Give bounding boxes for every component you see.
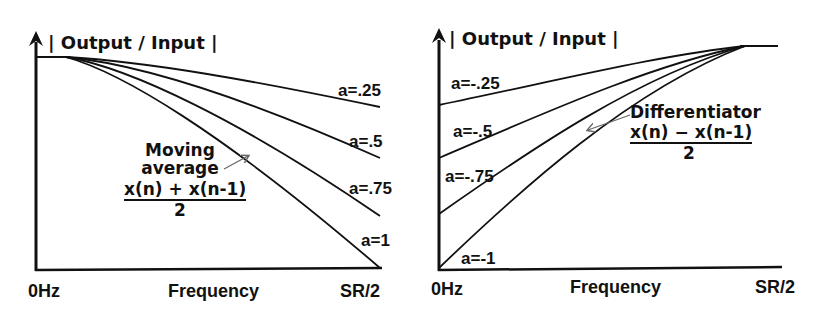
moving-average-title-line2: average (124, 160, 236, 177)
curve-label-a-neg-0.25: a=-.25 (451, 75, 500, 92)
differentiator-annotation: Differentiator x(n) − x(n-1) 2 (630, 104, 748, 162)
right-x-end-label: SR/2 (755, 278, 795, 296)
left-x-start-label: 0Hz (28, 282, 60, 300)
moving-average-formula-denominator: 2 (124, 202, 236, 219)
moving-average-annotation: Moving average x(n) + x(n-1) 2 (124, 142, 236, 219)
left-x-end-label: SR/2 (340, 282, 380, 300)
left-x-axis (35, 268, 382, 270)
left-x-axis-label: Frequency (168, 282, 259, 300)
curve-label-a-neg-0.5: a=-.5 (453, 123, 492, 140)
differentiator-formula-denominator: 2 (630, 145, 748, 162)
differentiator-pointer-arrow (588, 115, 630, 130)
curve-label-a-neg-0.75: a=-.75 (445, 168, 494, 185)
right-x-start-label: 0Hz (431, 280, 463, 298)
moving-average-formula-numerator: x(n) + x(n-1) (124, 181, 246, 201)
curve-label-a-neg-1: a=-1 (461, 250, 496, 267)
curve-label-a-0.5: a=.5 (349, 133, 383, 150)
curve-label-a-0.25: a=.25 (338, 82, 381, 99)
right-y-axis-label: | Output / Input | (449, 30, 619, 48)
curve-label-a-0.75: a=.75 (349, 180, 392, 197)
moving-average-title-line1: Moving (124, 142, 236, 159)
curve-label-a-1: a=1 (361, 232, 390, 249)
right-x-axis-label: Frequency (570, 278, 661, 296)
differentiator-title: Differentiator (630, 104, 748, 121)
left-y-axis-label: | Output / Input | (48, 34, 218, 52)
differentiator-formula-numerator: x(n) − x(n-1) (630, 124, 752, 144)
